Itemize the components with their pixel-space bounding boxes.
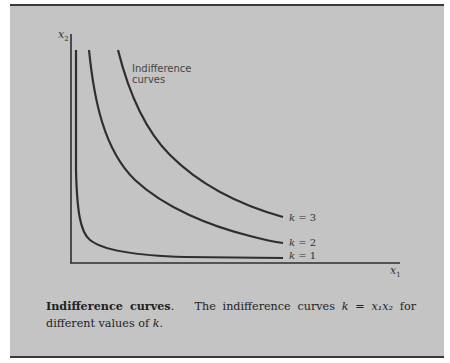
label-k2: k = 2 <box>289 237 316 248</box>
caption-title: Indifference curves <box>46 299 171 313</box>
y-axis-label: x2 <box>58 28 69 43</box>
x-axis-label: x1 <box>390 264 401 279</box>
curves-annotation: Indifference curves <box>132 63 192 85</box>
label-k3: k = 3 <box>289 212 316 223</box>
label-k1: k = 1 <box>289 250 316 261</box>
figure-caption: Indifference curves. The indifference cu… <box>46 298 416 332</box>
